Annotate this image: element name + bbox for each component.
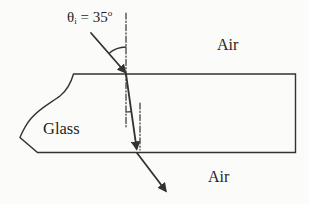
angle-value: = 35: [80, 9, 107, 25]
glass-label: Glass: [43, 121, 80, 138]
incident-angle-label: θi = 35o: [67, 9, 112, 26]
diagram-canvas: [0, 0, 309, 204]
diagram-strokes: [20, 13, 296, 191]
exit-ray: [137, 153, 166, 191]
degree-symbol: o: [108, 8, 113, 18]
incident-ray: [91, 33, 125, 72]
incidence-angle-arc: [109, 47, 126, 53]
air-label-top: Air: [217, 37, 238, 53]
air-label-bottom: Air: [208, 169, 229, 185]
theta-subscript: i: [74, 16, 77, 26]
refraction-diagram: θi = 35o Air Glass Air: [0, 0, 309, 204]
glass-slab-outline: [20, 74, 296, 153]
